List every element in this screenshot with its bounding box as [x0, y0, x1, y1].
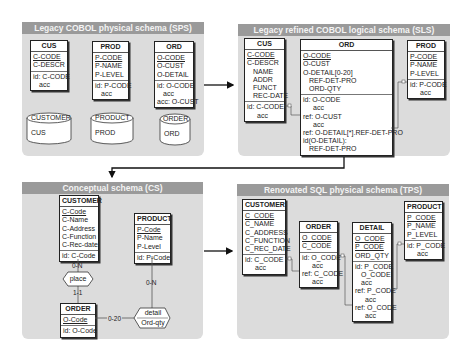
flow-arrows: [0, 0, 471, 357]
arrow-sls-to-cs: [112, 157, 344, 177]
